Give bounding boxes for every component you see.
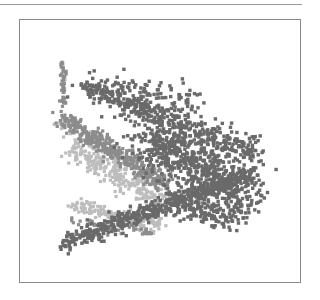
data-point bbox=[202, 216, 205, 219]
data-point bbox=[186, 188, 189, 191]
data-point bbox=[59, 74, 62, 77]
data-point bbox=[247, 176, 250, 179]
data-point bbox=[151, 170, 154, 173]
data-point bbox=[234, 149, 237, 152]
data-point bbox=[216, 161, 219, 164]
data-point bbox=[222, 172, 225, 175]
data-point bbox=[59, 119, 62, 122]
data-point bbox=[168, 149, 171, 152]
data-point bbox=[236, 218, 239, 221]
data-point bbox=[160, 188, 163, 191]
data-point bbox=[142, 87, 145, 90]
data-point bbox=[86, 201, 89, 204]
data-point bbox=[135, 223, 138, 226]
data-point bbox=[111, 169, 114, 172]
data-point bbox=[191, 124, 194, 127]
data-point bbox=[92, 85, 95, 88]
data-point bbox=[105, 86, 108, 89]
data-point bbox=[93, 97, 96, 100]
data-point bbox=[167, 169, 170, 172]
data-point bbox=[143, 124, 146, 127]
data-point bbox=[110, 212, 113, 215]
data-point bbox=[147, 92, 150, 95]
data-point bbox=[125, 234, 128, 237]
data-point bbox=[187, 195, 190, 198]
data-point bbox=[100, 136, 103, 139]
data-point bbox=[228, 148, 231, 151]
data-point bbox=[124, 172, 127, 175]
data-point bbox=[131, 157, 134, 160]
data-point bbox=[89, 168, 92, 171]
data-point bbox=[232, 165, 235, 168]
data-point bbox=[139, 224, 142, 227]
data-point bbox=[147, 190, 150, 193]
data-point bbox=[228, 177, 231, 180]
data-point bbox=[135, 103, 138, 106]
data-point bbox=[187, 122, 190, 125]
data-point bbox=[234, 215, 237, 218]
data-point bbox=[158, 168, 161, 171]
data-point bbox=[139, 95, 142, 98]
data-point bbox=[152, 164, 155, 167]
data-point bbox=[126, 215, 129, 218]
data-point bbox=[90, 239, 93, 242]
data-point bbox=[241, 186, 244, 189]
data-point bbox=[104, 81, 107, 84]
data-point bbox=[141, 119, 144, 122]
data-point bbox=[129, 205, 132, 208]
data-point bbox=[195, 195, 198, 198]
data-point bbox=[115, 195, 118, 198]
data-point bbox=[145, 228, 148, 231]
data-point bbox=[158, 140, 161, 143]
data-point bbox=[205, 168, 208, 171]
data-point bbox=[109, 145, 112, 148]
data-point bbox=[135, 197, 138, 200]
data-point bbox=[197, 186, 200, 189]
data-point bbox=[126, 163, 129, 166]
data-point bbox=[208, 159, 211, 162]
data-point bbox=[79, 133, 82, 136]
data-point bbox=[103, 170, 106, 173]
data-point bbox=[243, 155, 246, 158]
data-point bbox=[231, 143, 234, 146]
data-point bbox=[161, 152, 164, 155]
data-point bbox=[195, 171, 198, 174]
data-point bbox=[172, 123, 175, 126]
data-point bbox=[76, 163, 79, 166]
data-point bbox=[246, 198, 249, 201]
data-point bbox=[247, 207, 250, 210]
data-point bbox=[190, 156, 193, 159]
data-point bbox=[62, 239, 65, 242]
data-point bbox=[216, 155, 219, 158]
data-point bbox=[61, 62, 64, 65]
data-point bbox=[142, 207, 145, 210]
data-point bbox=[216, 210, 219, 213]
data-point bbox=[168, 123, 171, 126]
data-point bbox=[98, 97, 101, 100]
data-point bbox=[245, 152, 248, 155]
data-point bbox=[161, 96, 164, 99]
data-point bbox=[200, 121, 203, 124]
data-point bbox=[106, 158, 109, 161]
data-point bbox=[114, 190, 117, 193]
data-point bbox=[175, 146, 178, 149]
data-point bbox=[211, 190, 214, 193]
data-point bbox=[131, 79, 134, 82]
data-point bbox=[190, 108, 193, 111]
data-point bbox=[75, 207, 78, 210]
data-point bbox=[102, 146, 105, 149]
data-point bbox=[199, 133, 202, 136]
data-point bbox=[156, 92, 159, 95]
data-point bbox=[101, 129, 104, 132]
data-point bbox=[64, 151, 67, 154]
data-point bbox=[150, 109, 153, 112]
data-point bbox=[129, 137, 132, 140]
data-point bbox=[145, 171, 148, 174]
data-point bbox=[70, 119, 73, 122]
data-point bbox=[236, 172, 239, 175]
data-point bbox=[235, 131, 238, 134]
data-point bbox=[82, 234, 85, 237]
data-point bbox=[98, 156, 101, 159]
data-point bbox=[128, 100, 131, 103]
data-point bbox=[199, 140, 202, 143]
